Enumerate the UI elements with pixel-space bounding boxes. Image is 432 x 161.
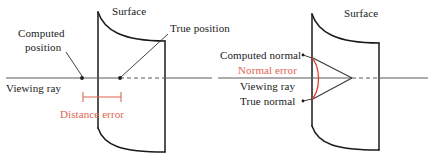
computed-position-dot	[80, 76, 84, 80]
true-position-label: True position	[170, 22, 230, 34]
right-surface-bottom-curve	[312, 126, 379, 150]
left-surface-label: Surface	[112, 5, 146, 17]
true-normal-leader-dot	[302, 100, 305, 103]
left-viewing-ray-label: Viewing ray	[6, 82, 61, 94]
right-surface-label: Surface	[344, 7, 378, 19]
computed-position-label-line2: position	[25, 41, 61, 53]
computed-normal-leader-dot	[302, 54, 305, 57]
figure-root: Surface Computed position True position …	[0, 0, 432, 161]
normal-error-label: Normal error	[238, 64, 297, 76]
computed-normal-leader	[303, 55, 312, 58]
distance-error-bar	[83, 92, 121, 102]
left-surface-shape	[98, 12, 165, 152]
left-surface-bottom-curve	[98, 128, 165, 152]
right-viewing-ray-label: Viewing ray	[240, 80, 295, 92]
computed-position-leader	[66, 52, 82, 76]
computed-normal-label: Computed normal	[220, 49, 301, 61]
computed-position-label-line1: Computed	[18, 27, 65, 39]
distance-error-label: Distance error	[60, 108, 124, 120]
true-normal-label: True normal	[240, 95, 295, 107]
